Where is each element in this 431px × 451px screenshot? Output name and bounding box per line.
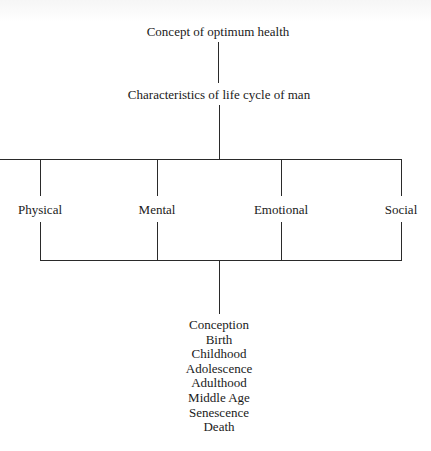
connector-physical-bottom: [40, 222, 41, 260]
life-stage-item: Senescence: [186, 406, 252, 421]
connector-emotional-top: [281, 159, 282, 196]
top-branch-bar: [0, 159, 402, 160]
life-stage-item: Conception: [186, 318, 252, 333]
aspect-physical: Physical: [18, 203, 62, 217]
connector-social-top: [401, 159, 402, 196]
root-node-label: Concept of optimum health: [147, 25, 290, 39]
life-stages-list: Conception Birth Childhood Adolescence A…: [186, 318, 252, 435]
page-bleed-through: [0, 0, 431, 22]
connector-emotional-bottom: [281, 222, 282, 260]
bottom-branch-bar: [40, 260, 402, 261]
connector-bar-to-life-stages: [219, 260, 220, 314]
connector-root-to-level2: [218, 42, 219, 83]
life-stage-item: Death: [186, 420, 252, 435]
connector-social-bottom: [401, 222, 402, 260]
life-stage-item: Adolescence: [186, 362, 252, 377]
level2-node-label: Characteristics of life cycle of man: [128, 88, 310, 102]
aspect-mental: Mental: [139, 203, 176, 217]
life-stage-item: Childhood: [186, 347, 252, 362]
life-stage-item: Adulthood: [186, 376, 252, 391]
connector-physical-top: [40, 159, 41, 196]
connector-level2-to-bar: [219, 105, 220, 159]
life-stage-item: Middle Age: [186, 391, 252, 406]
connector-mental-bottom: [157, 222, 158, 260]
aspect-social: Social: [385, 203, 418, 217]
aspect-emotional: Emotional: [254, 203, 308, 217]
life-stage-item: Birth: [186, 333, 252, 348]
connector-mental-top: [157, 159, 158, 196]
